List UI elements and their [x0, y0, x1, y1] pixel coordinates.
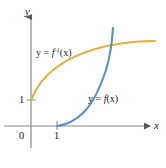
- x-axis-tick-label-one: 1: [54, 131, 59, 142]
- y-axis-label: y: [25, 6, 30, 17]
- curve-f: [57, 28, 113, 126]
- curve-label-f-prefix: y =: [88, 93, 104, 104]
- curve-label-f-inverse-prefix: y =: [36, 47, 52, 58]
- plot-canvas: [0, 0, 166, 168]
- x-axis-label: x: [154, 120, 159, 131]
- curve-label-f: y = f(x): [88, 94, 118, 104]
- curve-label-f-inverse-suffix: (x): [60, 47, 72, 58]
- inverse-function-figure: y x 1 0 1 y = f-1(x) y = f(x): [0, 0, 166, 168]
- y-axis-tick-label-one: 1: [19, 95, 24, 106]
- curve-label-f-inverse: y = f-1(x): [36, 48, 72, 58]
- curve-label-f-suffix: (x): [106, 93, 118, 104]
- origin-label: 0: [19, 131, 24, 142]
